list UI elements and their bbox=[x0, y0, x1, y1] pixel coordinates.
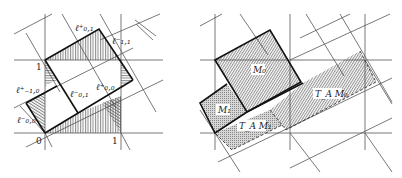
label-ta-m1: T_A M₁ bbox=[239, 121, 272, 132]
label-l-minus-0-1: ℓ⁻₀,₁ bbox=[70, 89, 89, 99]
hatch-left bbox=[26, 93, 45, 133]
right-panel: M₀ M₁ T_A M₀ T_A M₁ bbox=[200, 14, 392, 172]
label-l-plus-0-0: ℓ⁺₀,₀ bbox=[96, 82, 115, 92]
label-l-minus-1-1: ℓ⁻₁,₁ bbox=[112, 36, 131, 46]
label-m1: M₁ bbox=[217, 105, 231, 115]
label-l-minus-0-0: ℓ⁻₀,₀ bbox=[17, 115, 36, 125]
tick-origin: 0 bbox=[36, 136, 42, 146]
label-m0: M₀ bbox=[252, 65, 266, 75]
label-ta-m0: T_A M₀ bbox=[315, 89, 348, 100]
label-l-plus-m1-0: ℓ⁺₋₁,₀ bbox=[16, 85, 40, 95]
tick-x-one: 1 bbox=[112, 136, 118, 146]
label-l-plus-0-1: ℓ⁺₀,₁ bbox=[75, 23, 94, 33]
tick-y-one: 1 bbox=[36, 62, 42, 72]
left-panel: ℓ⁺₀,₁ ℓ⁻₁,₁ ℓ⁺₋₁,₀ ℓ⁻₀,₁ ℓ⁺₀,₀ ℓ⁻₀,₀ 0 1… bbox=[14, 14, 163, 150]
diagram-canvas: ℓ⁺₀,₁ ℓ⁻₁,₁ ℓ⁺₋₁,₀ ℓ⁻₀,₁ ℓ⁺₀,₀ ℓ⁻₀,₀ 0 1… bbox=[0, 0, 402, 178]
